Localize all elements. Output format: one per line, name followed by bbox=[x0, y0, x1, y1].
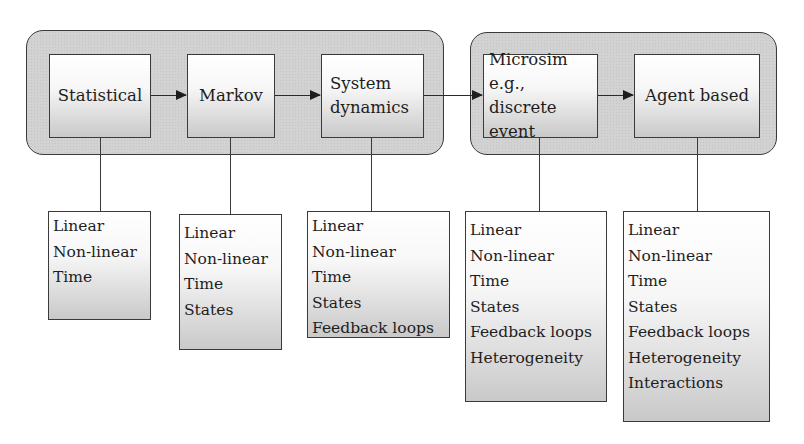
attribute-item: Non-linear bbox=[470, 244, 606, 270]
attribute-item: States bbox=[628, 295, 769, 321]
attributes-system-dynamics: Linear Non-linear Time States Feedback l… bbox=[307, 211, 450, 338]
model-label-system-dynamics: System dynamics bbox=[330, 72, 409, 120]
attributes-agent-based: Linear Non-linear Time States Feedback l… bbox=[623, 211, 770, 422]
attribute-item: States bbox=[184, 298, 281, 324]
arrow-statistical-to-markov bbox=[151, 95, 186, 96]
model-box-statistical: Statistical bbox=[49, 54, 151, 138]
connector-microsim bbox=[539, 138, 540, 212]
attribute-item: Interactions bbox=[628, 371, 769, 397]
attribute-item: Time bbox=[53, 265, 150, 291]
attribute-item: Time bbox=[184, 272, 281, 298]
attribute-item: Linear bbox=[312, 214, 449, 240]
model-box-agent-based: Agent based bbox=[634, 54, 760, 138]
connector-statistical bbox=[100, 138, 101, 212]
attribute-item: Linear bbox=[470, 218, 606, 244]
attribute-item: Non-linear bbox=[628, 244, 769, 270]
attribute-item: Non-linear bbox=[53, 240, 150, 266]
attribute-item: Linear bbox=[53, 214, 150, 240]
model-label-agent-based: Agent based bbox=[645, 84, 749, 108]
attribute-item: Linear bbox=[628, 218, 769, 244]
arrow-system-dynamics-to-microsim bbox=[424, 95, 482, 96]
model-label-statistical: Statistical bbox=[58, 84, 142, 108]
model-label-microsim: Microsim e.g., discrete event bbox=[489, 48, 597, 144]
attributes-microsim: Linear Non-linear Time States Feedback l… bbox=[465, 211, 607, 402]
attribute-item: Linear bbox=[184, 221, 281, 247]
arrow-markov-to-system-dynamics bbox=[275, 95, 320, 96]
attributes-markov: Linear Non-linear Time States bbox=[179, 214, 282, 350]
attribute-item: Feedback loops bbox=[312, 316, 449, 342]
model-label-markov: Markov bbox=[199, 84, 263, 108]
model-box-microsim: Microsim e.g., discrete event bbox=[483, 54, 598, 138]
attribute-item: Time bbox=[628, 269, 769, 295]
connector-markov bbox=[230, 138, 231, 215]
model-box-markov: Markov bbox=[187, 54, 275, 138]
arrow-microsim-to-agent-based bbox=[598, 95, 633, 96]
attribute-item: Non-linear bbox=[312, 240, 449, 266]
attribute-item: Feedback loops bbox=[470, 320, 606, 346]
attribute-item: Feedback loops bbox=[628, 320, 769, 346]
model-box-system-dynamics: System dynamics bbox=[321, 54, 424, 138]
connector-system-dynamics bbox=[371, 138, 372, 212]
attribute-item: Non-linear bbox=[184, 247, 281, 273]
attribute-item: Time bbox=[470, 269, 606, 295]
attribute-item: Heterogeneity bbox=[628, 346, 769, 372]
attributes-statistical: Linear Non-linear Time bbox=[48, 211, 151, 320]
attribute-item: Heterogeneity bbox=[470, 346, 606, 372]
attribute-item: Time bbox=[312, 265, 449, 291]
attribute-item: States bbox=[470, 295, 606, 321]
connector-agent-based bbox=[697, 138, 698, 212]
attribute-item: States bbox=[312, 291, 449, 317]
